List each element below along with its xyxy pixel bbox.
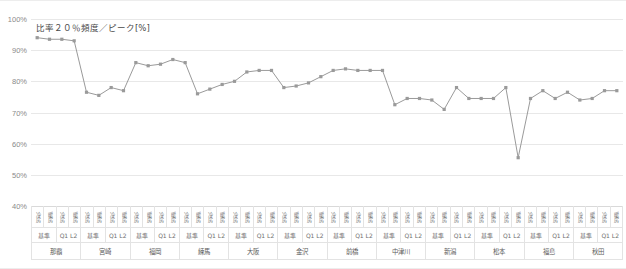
- plot-area: [31, 19, 623, 206]
- data-point: [615, 89, 618, 92]
- x-label-condition: Q1 L2: [499, 228, 524, 243]
- data-point: [221, 83, 224, 86]
- x-label-condition: 基準: [31, 228, 56, 243]
- x-label-condition: Q1 L2: [548, 228, 573, 243]
- x-label-mode: 冷房: [474, 206, 486, 228]
- x-label-condition: 基準: [228, 228, 253, 243]
- x-axis-condition-band: 基準Q1 L2基準Q1 L2基準Q1 L2基準Q1 L2基準Q1 L2基準Q1 …: [31, 228, 623, 243]
- series-markers: [36, 36, 619, 159]
- data-point: [36, 36, 39, 39]
- data-point: [480, 97, 483, 100]
- data-point: [270, 69, 273, 72]
- data-point: [492, 97, 495, 100]
- data-point: [332, 69, 335, 72]
- x-label-city: 中津川: [376, 243, 425, 260]
- x-label-city: 前橋: [327, 243, 376, 260]
- x-label-mode: 冷房: [179, 206, 191, 228]
- data-point: [541, 89, 544, 92]
- x-label-mode: 冷房: [376, 206, 388, 228]
- data-point: [418, 97, 421, 100]
- x-label-mode: 暖房: [290, 206, 302, 228]
- data-point: [319, 75, 322, 78]
- x-label-city: 福岡: [130, 243, 179, 260]
- x-label-mode: 冷房: [105, 206, 117, 228]
- x-label-mode: 冷房: [499, 206, 511, 228]
- data-point: [344, 67, 347, 70]
- x-label-city: 福島: [524, 243, 573, 260]
- data-point: [578, 98, 581, 101]
- y-tick-label-80: 80%: [12, 77, 27, 86]
- data-point: [147, 64, 150, 67]
- y-tick-label-70: 70%: [12, 108, 27, 117]
- x-label-condition: Q1 L2: [253, 228, 278, 243]
- data-point: [159, 63, 162, 66]
- x-label-mode: 暖房: [413, 206, 425, 228]
- x-label-condition: 基準: [277, 228, 302, 243]
- x-label-mode: 冷房: [400, 206, 412, 228]
- data-point: [196, 92, 199, 95]
- data-point: [245, 70, 248, 73]
- x-axis-mode-band: 冷房暖房冷房暖房冷房暖房冷房暖房冷房暖房冷房暖房冷房暖房冷房暖房冷房暖房冷房暖房…: [31, 206, 623, 228]
- x-label-mode: 暖房: [511, 206, 523, 228]
- y-axis-labels: 100%90%80%70%60%50%40%: [0, 19, 28, 206]
- x-label-mode: 冷房: [302, 206, 314, 228]
- x-label-mode: 暖房: [487, 206, 499, 228]
- data-point: [529, 97, 532, 100]
- data-point: [282, 86, 285, 89]
- x-label-condition: 基準: [376, 228, 401, 243]
- x-label-mode: 暖房: [363, 206, 375, 228]
- chart-container: 100%90%80%70%60%50%40% 比率２０％頻度／ピーク[%] 冷房…: [0, 0, 626, 269]
- x-label-condition: Q1 L2: [597, 228, 623, 243]
- x-label-city: 新潟: [425, 243, 474, 260]
- x-label-mode: 暖房: [216, 206, 228, 228]
- x-label-condition: 基準: [425, 228, 450, 243]
- data-point: [60, 38, 63, 41]
- x-label-mode: 暖房: [142, 206, 154, 228]
- x-label-city: 宮崎: [80, 243, 129, 260]
- data-point: [122, 89, 125, 92]
- data-point: [369, 69, 372, 72]
- x-label-condition: Q1 L2: [56, 228, 81, 243]
- x-label-mode: 暖房: [610, 206, 623, 228]
- x-label-mode: 暖房: [314, 206, 326, 228]
- x-label-mode: 冷房: [327, 206, 339, 228]
- x-label-condition: 基準: [130, 228, 155, 243]
- data-point: [467, 97, 470, 100]
- data-point: [97, 94, 100, 97]
- x-label-mode: 暖房: [265, 206, 277, 228]
- series-line: [31, 19, 623, 206]
- data-point: [73, 39, 76, 42]
- data-point: [208, 88, 211, 91]
- x-label-mode: 冷房: [597, 206, 609, 228]
- chart-title: 比率２０％頻度／ピーク[%]: [36, 21, 150, 33]
- x-label-condition: Q1 L2: [203, 228, 228, 243]
- data-point: [110, 86, 113, 89]
- x-label-condition: Q1 L2: [105, 228, 130, 243]
- x-label-condition: 基準: [179, 228, 204, 243]
- x-label-mode: 暖房: [388, 206, 400, 228]
- data-point: [455, 86, 458, 89]
- x-label-mode: 暖房: [68, 206, 80, 228]
- x-label-city: 大阪: [228, 243, 277, 260]
- x-label-mode: 冷房: [203, 206, 215, 228]
- x-axis-city-band: 那覇宮崎福岡練馬大阪金沢前橋中津川新潟松本福島秋田: [31, 243, 623, 260]
- x-label-mode: 冷房: [425, 206, 437, 228]
- x-label-mode: 冷房: [351, 206, 363, 228]
- x-label-mode: 暖房: [93, 206, 105, 228]
- data-point: [184, 61, 187, 64]
- x-label-mode: 冷房: [253, 206, 265, 228]
- data-point: [504, 86, 507, 89]
- data-point: [517, 156, 520, 159]
- x-label-mode: 暖房: [166, 206, 178, 228]
- x-label-condition: 基準: [327, 228, 352, 243]
- x-label-mode: 冷房: [31, 206, 43, 228]
- x-label-mode: 暖房: [339, 206, 351, 228]
- x-label-mode: 冷房: [277, 206, 289, 228]
- x-label-condition: 基準: [524, 228, 549, 243]
- data-point: [258, 69, 261, 72]
- data-point: [393, 103, 396, 106]
- y-tick-label-60: 60%: [12, 139, 27, 148]
- data-point: [356, 69, 359, 72]
- y-tick-label-40: 40%: [12, 202, 27, 211]
- x-label-mode: 冷房: [56, 206, 68, 228]
